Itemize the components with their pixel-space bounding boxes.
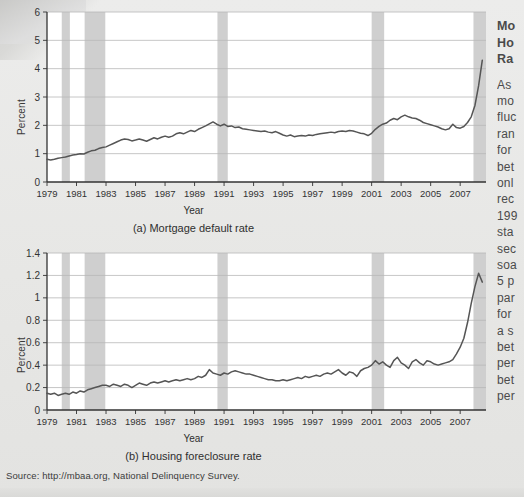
side-body-line: fluc [497, 109, 524, 125]
side-body-line: par [497, 290, 524, 306]
xtick-label: 1981 [66, 188, 87, 199]
chart-a-ylabel: Percent [16, 99, 27, 135]
ytick-label: 1 [34, 148, 40, 159]
recession-band-0 [62, 253, 70, 410]
chart-a-plot: 0123456197919811983198519871989199119931… [0, 0, 497, 215]
side-body-line: soa [497, 257, 524, 273]
chart-b-ylabel: Percent [16, 337, 27, 373]
xtick-label: 1985 [125, 188, 146, 199]
side-heading-line: Ra [497, 51, 524, 68]
xtick-label: 2001 [361, 188, 382, 199]
side-body-line: sta [497, 224, 524, 240]
xtick-label: 1993 [243, 416, 264, 427]
side-body-line: bet [497, 372, 524, 388]
ytick-label: 5 [34, 35, 40, 46]
xtick-label: 1991 [214, 188, 235, 199]
ytick-label: 1.4 [26, 248, 40, 259]
side-body-line: bet [497, 159, 524, 175]
recession-band-2 [217, 253, 227, 410]
chart-b-xlabel: Year [0, 433, 442, 444]
side-body-line: rec [497, 191, 524, 207]
chart-b-caption: (b) Housing foreclosure rate [0, 450, 442, 462]
ytick-label: 0.6 [26, 337, 40, 348]
xtick-label: 1987 [154, 188, 175, 199]
ytick-label: 0.2 [26, 382, 40, 393]
ytick-label: 0 [34, 177, 40, 188]
xtick-label: 2007 [450, 416, 471, 427]
chart-a-xlabel: Year [0, 205, 442, 216]
xtick-label: 2007 [450, 188, 471, 199]
page-bottom-edge [0, 488, 524, 497]
xtick-label: 1989 [184, 188, 205, 199]
xtick-label: 2005 [420, 416, 441, 427]
ytick-label: 0.4 [26, 360, 40, 371]
xtick-label: 1983 [95, 416, 116, 427]
side-body-line: 5 p [497, 273, 524, 289]
xtick-label: 1979 [36, 416, 57, 427]
side-body-line: per [497, 388, 524, 404]
ytick-label: 0.8 [26, 315, 40, 326]
xtick-label: 1979 [36, 188, 57, 199]
xtick-label: 2005 [420, 188, 441, 199]
xtick-label: 1999 [332, 188, 353, 199]
recession-band-3 [372, 253, 385, 410]
ytick-label: 6 [34, 7, 40, 18]
xtick-label: 1989 [184, 416, 205, 427]
xtick-label: 1997 [302, 416, 323, 427]
xtick-label: 2001 [361, 416, 382, 427]
side-heading-line: Mo [497, 18, 524, 35]
xtick-label: 1995 [273, 416, 294, 427]
ytick-label: 3 [34, 92, 40, 103]
recession-band-1 [85, 253, 106, 410]
xtick-label: 1997 [302, 188, 323, 199]
side-body-line: a s [497, 323, 524, 339]
side-body-line: ran [497, 126, 524, 142]
side-body-line: for [497, 142, 524, 158]
xtick-label: 1991 [214, 416, 235, 427]
chart-housing-foreclosure-rate: Percent 00.20.40.60.811.21.4197919811983… [0, 243, 497, 473]
chart-a-caption: (a) Mortgage default rate [0, 222, 442, 234]
side-body-line: 199 [497, 208, 524, 224]
side-body-line: per [497, 355, 524, 371]
side-heading: Mo Ho Ra [497, 0, 524, 68]
side-body: As mo fluc ran for bet onl rec 199 sta s… [497, 77, 524, 405]
chart-b-plot: 00.20.40.60.811.21.419791981198319851987… [0, 243, 497, 443]
side-body-line: for [497, 306, 524, 322]
side-body-line: bet [497, 339, 524, 355]
side-body-line: onl [497, 175, 524, 191]
xtick-label: 1981 [66, 416, 87, 427]
xtick-label: 2003 [391, 416, 412, 427]
ytick-label: 1.2 [26, 270, 40, 281]
xtick-label: 1983 [95, 188, 116, 199]
side-body-line: sec [497, 241, 524, 257]
side-heading-line: Ho [497, 35, 524, 52]
xtick-label: 1999 [332, 416, 353, 427]
xtick-label: 1987 [154, 416, 175, 427]
xtick-label: 1993 [243, 188, 264, 199]
ytick-label: 1 [34, 292, 40, 303]
ytick-label: 0 [34, 405, 40, 416]
side-body-line: mo [497, 93, 524, 109]
plot-background [47, 253, 486, 410]
source-note: Source: http://mbaa.org, National Delinq… [6, 470, 240, 481]
side-body-line: As [497, 77, 524, 93]
xtick-label: 1995 [273, 188, 294, 199]
ytick-label: 2 [34, 120, 40, 131]
ytick-label: 4 [34, 63, 40, 74]
chart-mortgage-default-rate: Percent 01234561979198119831985198719891… [0, 0, 497, 240]
side-text-column: Mo Ho Ra As mo fluc ran for bet onl rec … [497, 0, 524, 455]
xtick-label: 2003 [391, 188, 412, 199]
xtick-label: 1985 [125, 416, 146, 427]
